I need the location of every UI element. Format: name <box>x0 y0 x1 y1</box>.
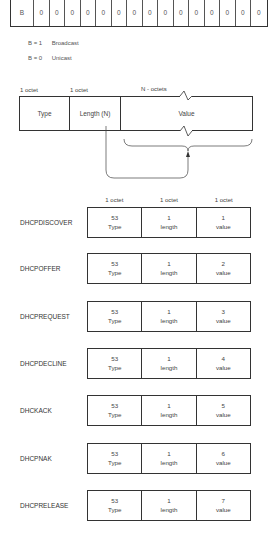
message-type-name: DHCKACK <box>20 395 52 426</box>
type-cell: 53Type <box>88 302 142 331</box>
message-type-row: DHCPRELEASE53Type1length7value <box>0 490 269 521</box>
value-cell: 3value <box>197 302 250 331</box>
value-code: 4 <box>222 355 225 364</box>
value-code: 1 <box>222 214 225 223</box>
type-label: Type <box>108 459 121 468</box>
message-type-name: DHCPREQUEST <box>20 301 70 332</box>
type-cell: 53Type <box>88 349 142 378</box>
length-label: length <box>161 506 178 515</box>
message-type-row: DHCPDECLINE53Type1length4value <box>0 348 269 379</box>
value-code: 7 <box>222 497 225 506</box>
value-cell: 5value <box>197 396 250 425</box>
value-label: value <box>216 223 231 232</box>
type-cell: 53Type <box>88 396 142 425</box>
length-label: length <box>161 317 178 326</box>
type-cell: 53Type <box>88 254 142 283</box>
value-code: 6 <box>222 450 225 459</box>
header-length-octet: 1 octet <box>142 197 197 203</box>
message-type-name: DHCPDISCOVER <box>20 207 72 238</box>
length-cell: 1length <box>142 208 196 237</box>
message-type-row: DHCPREQUEST53Type1length3value <box>0 301 269 332</box>
length-value: 1 <box>167 497 170 506</box>
value-cell: 1value <box>197 208 250 237</box>
type-label: Type <box>108 411 121 420</box>
type-cell: 53Type <box>88 444 142 473</box>
length-cell: 1length <box>142 491 196 520</box>
length-value: 1 <box>167 260 170 269</box>
type-code: 53 <box>111 402 118 411</box>
length-value: 1 <box>167 214 170 223</box>
value-code: 2 <box>222 260 225 269</box>
message-type-option: 53Type1length7value <box>87 490 251 521</box>
length-label: length <box>161 364 178 373</box>
message-type-name: DHCPRELEASE <box>20 490 68 521</box>
message-type-option: 53Type1length1value <box>87 207 251 238</box>
message-type-row: DHCPOFFER53Type1length2value <box>0 253 269 284</box>
type-code: 53 <box>111 260 118 269</box>
type-cell: 53Type <box>88 208 142 237</box>
value-cell: 4value <box>197 349 250 378</box>
message-type-row: DHCKACK53Type1length5value <box>0 395 269 426</box>
type-code: 53 <box>111 497 118 506</box>
type-code: 53 <box>111 308 118 317</box>
length-value: 1 <box>167 450 170 459</box>
type-label: Type <box>108 317 121 326</box>
length-value: 1 <box>167 355 170 364</box>
message-type-header: 1 octet 1 octet 1 octet <box>87 197 251 203</box>
length-label: length <box>161 269 178 278</box>
length-cell: 1length <box>142 302 196 331</box>
tlv-annotation-graphics <box>0 0 269 200</box>
value-code: 5 <box>222 402 225 411</box>
length-cell: 1length <box>142 396 196 425</box>
message-type-row: DHCPDISCOVER53Type1length1value <box>0 207 269 238</box>
value-code: 3 <box>222 308 225 317</box>
type-label: Type <box>108 506 121 515</box>
header-type-octet: 1 octet <box>87 197 142 203</box>
length-value: 1 <box>167 402 170 411</box>
length-value: 1 <box>167 308 170 317</box>
value-label: value <box>216 364 231 373</box>
length-cell: 1length <box>142 254 196 283</box>
type-cell: 53Type <box>88 491 142 520</box>
value-label: value <box>216 317 231 326</box>
length-label: length <box>161 459 178 468</box>
message-type-name: DHCPOFFER <box>20 253 60 284</box>
message-type-option: 53Type1length2value <box>87 253 251 284</box>
value-label: value <box>216 459 231 468</box>
message-type-name: DHCPDECLINE <box>20 348 67 379</box>
message-type-option: 53Type1length6value <box>87 443 251 474</box>
value-cell: 7value <box>197 491 250 520</box>
type-code: 53 <box>111 355 118 364</box>
length-label: length <box>161 411 178 420</box>
message-type-option: 53Type1length3value <box>87 301 251 332</box>
message-type-option: 53Type1length4value <box>87 348 251 379</box>
length-cell: 1length <box>142 349 196 378</box>
type-label: Type <box>108 269 121 278</box>
value-label: value <box>216 506 231 515</box>
message-type-option: 53Type1length5value <box>87 395 251 426</box>
value-label: value <box>216 411 231 420</box>
message-type-name: DHCPNAK <box>20 443 52 474</box>
value-cell: 2value <box>197 254 250 283</box>
length-cell: 1length <box>142 444 196 473</box>
type-code: 53 <box>111 450 118 459</box>
type-code: 53 <box>111 214 118 223</box>
value-label: value <box>216 269 231 278</box>
message-type-row: DHCPNAK53Type1length6value <box>0 443 269 474</box>
header-value-octet: 1 octet <box>196 197 251 203</box>
type-label: Type <box>108 364 121 373</box>
type-label: Type <box>108 223 121 232</box>
value-cell: 6value <box>197 444 250 473</box>
length-label: length <box>161 223 178 232</box>
